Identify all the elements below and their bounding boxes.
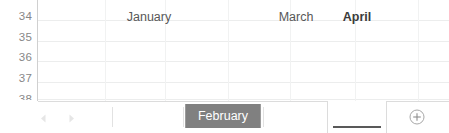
sheet-tab-february[interactable]: February [185,104,261,128]
spreadsheet-screenshot: 34 35 36 37 38 January [0,0,449,133]
gridline-horizontal [38,82,449,83]
row-header-38[interactable]: 38 [0,89,32,100]
row-header-36[interactable]: 36 [0,47,32,67]
gridline-vertical [228,0,229,101]
previous-sheet-arrow-icon[interactable] [30,107,56,129]
add-sheet-button[interactable] [408,108,426,126]
tab-separator [112,107,113,127]
gridline-horizontal [38,61,449,62]
row-header-37[interactable]: 37 [0,68,32,88]
tab-bar-top-border [38,101,449,102]
row-header-divider [37,0,38,101]
next-sheet-arrow-icon[interactable] [58,107,84,129]
sheet-tab-april[interactable]: April [330,3,384,30]
row-header-34[interactable]: 34 [0,6,32,26]
gridline-horizontal [38,20,449,21]
sheet-tab-january[interactable]: January [116,3,182,30]
circle-plus-icon [409,109,425,125]
sheet-tab-march[interactable]: March [266,3,326,30]
active-tab-underline [333,126,381,128]
active-tab-background [327,101,387,133]
gridline-vertical [105,0,106,101]
gridline-vertical [418,0,419,101]
row-header-column: 34 35 36 37 38 [0,0,38,101]
gridline-horizontal [38,41,449,42]
tab-separator [263,107,264,127]
cell-region[interactable] [38,0,449,101]
row-header-35[interactable]: 35 [0,27,32,47]
gridline-horizontal [38,99,449,100]
tab-separator [183,107,184,127]
sheet-nav-arrows [30,107,92,129]
